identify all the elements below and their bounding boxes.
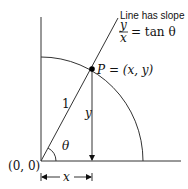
caption-line: Line has slope — [120, 10, 185, 21]
vertical-label: y — [84, 106, 92, 120]
slope-rhs: = tan θ — [131, 25, 176, 39]
unit-circle-diagram: Line has slope y x = tan θ P = (x, y) (0… — [0, 0, 188, 189]
angle-arc — [48, 148, 56, 161]
point-p — [89, 66, 95, 72]
point-label: P = (x, y) — [96, 63, 154, 77]
slope-line — [41, 18, 118, 161]
angle-label: θ — [62, 139, 70, 153]
origin-label: (0, 0) — [8, 159, 40, 173]
horizontal-label: x — [63, 170, 70, 184]
hypotenuse-label: 1 — [62, 97, 70, 111]
slope-denominator: x — [120, 31, 127, 45]
slope-numerator: y — [119, 18, 127, 32]
